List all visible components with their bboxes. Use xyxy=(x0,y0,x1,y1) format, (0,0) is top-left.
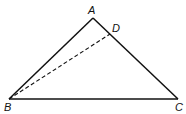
triangle-diagram: A D B C xyxy=(0,0,186,114)
label-d: D xyxy=(112,22,120,34)
label-b: B xyxy=(4,101,11,113)
segment-ab xyxy=(9,18,93,99)
label-a: A xyxy=(87,4,95,16)
label-c: C xyxy=(175,101,183,113)
segment-ac xyxy=(93,18,178,99)
segment-bd-dashed xyxy=(9,34,110,99)
